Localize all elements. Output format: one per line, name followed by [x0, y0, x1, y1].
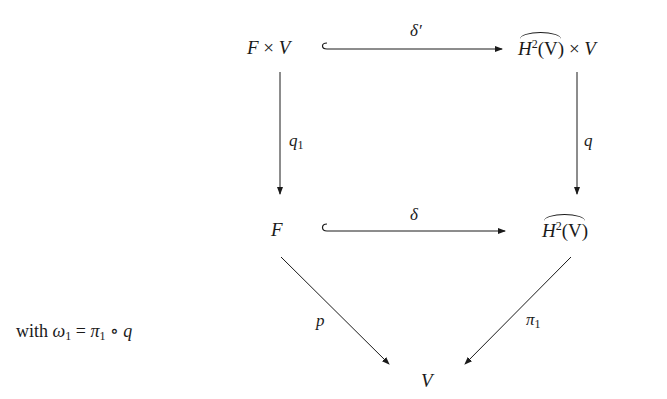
hat-accent-group: H2(V) — [542, 220, 588, 240]
label-pi1-sub: 1 — [535, 317, 541, 331]
node-top-right: H2(V) × V — [518, 38, 596, 58]
symbol-H: H — [518, 38, 532, 59]
symbol-F: F — [247, 37, 259, 58]
top-inclusion-arrow — [323, 43, 503, 49]
label-q1-base: q — [289, 131, 298, 150]
symbol-V: V — [584, 38, 596, 59]
pi1: π1 — [90, 321, 105, 341]
label-pi1-base: π — [526, 310, 535, 329]
times-symbol: × — [569, 38, 580, 59]
label-q1: q1 — [289, 132, 304, 151]
node-mid-left: F — [271, 220, 283, 239]
right-diagonal-arrow — [465, 257, 571, 364]
label-q1-sub: 1 — [298, 138, 304, 152]
omega-sub: 1 — [65, 329, 71, 343]
label-pi1: π1 — [526, 311, 541, 330]
note-prefix: with — [16, 321, 48, 341]
pi-sub: 1 — [99, 329, 105, 343]
node-top-left: F × V — [247, 38, 290, 57]
label-delta: δ — [410, 206, 418, 223]
argument-V: (V) — [538, 38, 564, 59]
node-bottom: V — [421, 371, 433, 390]
symbol-q: q — [123, 321, 132, 341]
middle-inclusion-arrow — [323, 224, 506, 231]
label-q: q — [584, 132, 593, 149]
hat-accent-group: H2(V) — [518, 38, 564, 58]
omega-base: ω — [53, 321, 66, 341]
definition-note: with ω1 = π1 ∘ q — [16, 322, 132, 342]
symbol-V: V — [279, 37, 291, 58]
argument-V: (V) — [562, 220, 588, 241]
times-symbol: × — [263, 37, 274, 58]
label-p: p — [316, 312, 325, 329]
label-delta-prime: δ′ — [410, 22, 422, 39]
compose-operator: ∘ — [110, 321, 119, 341]
equals-sign: = — [76, 321, 86, 341]
symbol-H: H — [542, 220, 556, 241]
omega1: ω1 — [53, 321, 72, 341]
node-mid-right: H2(V) — [542, 220, 588, 240]
left-diagonal-arrow — [281, 257, 389, 364]
